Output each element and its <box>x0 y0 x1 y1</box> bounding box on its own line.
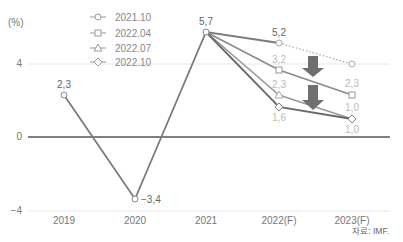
legend-item-2022-10: 2022.10 <box>90 57 152 68</box>
legend: 2021.10 2022.04 2022.07 2022.10 <box>90 12 152 68</box>
x-tick-2019: 2019 <box>53 215 76 226</box>
legend-diamond-icon <box>94 58 102 66</box>
legend-item-2022-04: 2022.04 <box>90 28 152 39</box>
label-s4-2023: 1,0 <box>345 124 359 135</box>
down-arrow-icon-upper <box>302 56 324 77</box>
svg-text:2022.04: 2022.04 <box>115 28 152 39</box>
label-s4-2022: 1,6 <box>272 112 286 123</box>
svg-text:2021.10: 2021.10 <box>115 12 152 23</box>
legend-item-2021-10: 2021.10 <box>90 12 152 23</box>
label-s2-2022: 3,2 <box>272 54 286 65</box>
marker-2019 <box>61 92 67 98</box>
legend-square-icon <box>95 30 101 36</box>
label-2021: 5,7 <box>199 16 213 27</box>
x-tick-2022f: 2022(F) <box>261 215 296 226</box>
series-2021-10-line <box>64 32 279 199</box>
line-chart: (%) 4 0 −4 2019 2020 2021 2022(F) 2023(F… <box>0 0 403 242</box>
marker-2021-10-2023 <box>349 61 355 67</box>
marker-2020 <box>132 196 138 202</box>
label-2019: 2,3 <box>57 79 71 90</box>
x-tick-2021: 2021 <box>195 215 218 226</box>
y-tick-0: 0 <box>16 131 22 142</box>
svg-text:2022.10: 2022.10 <box>115 57 152 68</box>
marker-2021 <box>203 29 209 35</box>
marker-2022-04-2023 <box>349 92 355 98</box>
source-note: 자료: IMF. <box>352 224 389 236</box>
label-s3-2022: 2,3 <box>272 79 286 90</box>
x-tick-2020: 2020 <box>124 215 147 226</box>
svg-text:2022.07: 2022.07 <box>115 43 152 54</box>
y-tick-4: 4 <box>16 58 22 69</box>
legend-circle-icon <box>95 14 101 20</box>
marker-2022-10-2023 <box>348 115 356 123</box>
label-s1-2022: 5,2 <box>272 27 286 38</box>
marker-2021-10-2022 <box>276 40 282 46</box>
label-s3-2023: 1,0 <box>345 102 359 113</box>
label-s2-2023: 2,3 <box>345 78 359 89</box>
down-arrow-icon-lower <box>302 85 324 110</box>
label-2020: −3,4 <box>141 194 161 205</box>
legend-item-2022-07: 2022.07 <box>90 43 152 54</box>
marker-2022-04-2022 <box>276 67 282 73</box>
y-unit-label: (%) <box>8 17 24 28</box>
y-tick-minus-4: −4 <box>11 205 23 216</box>
